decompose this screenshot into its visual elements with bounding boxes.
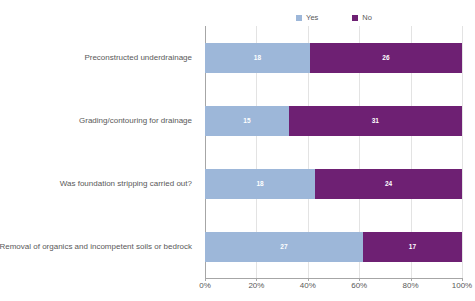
bar-row: 1824 <box>205 152 462 215</box>
chart-legend: Yes No <box>205 10 463 26</box>
legend-label-no: No <box>362 14 372 22</box>
category-text: Removal of organics and incompetent soil… <box>0 242 192 252</box>
category-text: Preconstructed underdrainage <box>84 53 192 63</box>
bar-row: 1826 <box>205 26 462 89</box>
bar-segment-yes[interactable]: 18 <box>205 169 315 199</box>
stacked-bar-chart: Yes No Preconstructed underdrainage Grad… <box>0 0 475 301</box>
bar-segment-no[interactable]: 24 <box>315 169 462 199</box>
bar-value-label: 18 <box>254 54 261 62</box>
bar-stack: 1826 <box>205 43 462 73</box>
x-axis-line <box>205 278 463 279</box>
gridline-100 <box>462 26 463 278</box>
category-label-0: Preconstructed underdrainage <box>0 26 198 89</box>
category-label-2: Was foundation stripping carried out? <box>0 152 198 215</box>
bar-rows: 1826153118242717 <box>205 26 462 278</box>
legend-item-yes[interactable]: Yes <box>296 14 318 22</box>
x-tick-label: 40% <box>300 280 316 292</box>
bar-value-label: 26 <box>382 54 389 62</box>
legend-swatch-yes <box>296 15 302 21</box>
bar-segment-no[interactable]: 26 <box>310 43 462 73</box>
category-axis: Preconstructed underdrainage Grading/con… <box>0 26 198 278</box>
bar-segment-no[interactable]: 17 <box>363 232 462 262</box>
bar-segment-yes[interactable]: 18 <box>205 43 310 73</box>
category-text: Grading/contouring for drainage <box>79 116 192 126</box>
category-label-3: Removal of organics and incompetent soil… <box>0 215 198 278</box>
x-tick-label: 80% <box>403 280 419 292</box>
x-axis-ticks: 0%20%40%60%80%100% <box>205 280 462 294</box>
bar-row: 1531 <box>205 89 462 152</box>
bar-segment-yes[interactable]: 27 <box>205 232 363 262</box>
bar-row: 2717 <box>205 215 462 278</box>
x-tick-label: 0% <box>199 280 211 292</box>
bar-stack: 1531 <box>205 106 462 136</box>
bar-value-label: 24 <box>385 180 392 188</box>
bar-stack: 2717 <box>205 232 462 262</box>
bar-stack: 1824 <box>205 169 462 199</box>
plot-area: 1826153118242717 <box>205 26 462 278</box>
x-tick-label: 60% <box>351 280 367 292</box>
bar-value-label: 31 <box>372 117 379 125</box>
bar-value-label: 27 <box>280 243 287 251</box>
bar-value-label: 17 <box>409 243 416 251</box>
legend-item-no[interactable]: No <box>352 14 372 22</box>
x-tick-label: 100% <box>452 280 472 292</box>
bar-value-label: 18 <box>256 180 263 188</box>
bar-segment-yes[interactable]: 15 <box>205 106 289 136</box>
category-text: Was foundation stripping carried out? <box>60 179 192 189</box>
category-label-1: Grading/contouring for drainage <box>0 89 198 152</box>
legend-label-yes: Yes <box>306 14 318 22</box>
bar-value-label: 15 <box>243 117 250 125</box>
bar-segment-no[interactable]: 31 <box>289 106 462 136</box>
legend-swatch-no <box>352 15 358 21</box>
x-tick-label: 20% <box>248 280 264 292</box>
